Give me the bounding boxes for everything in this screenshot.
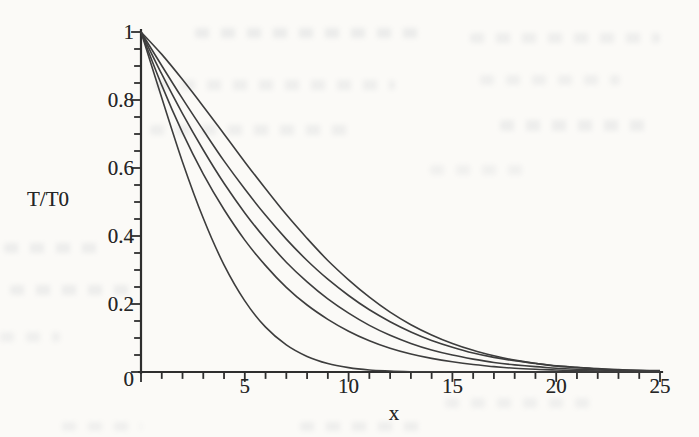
x-tick-label-10: 10 xyxy=(329,375,369,397)
y-tick-label-0.4: 0.4 xyxy=(40,225,134,247)
y-axis-label: T/T0 xyxy=(27,188,85,210)
x-tick-label-20: 20 xyxy=(536,375,576,397)
x-tick-label-15: 15 xyxy=(432,375,472,397)
y-tick-label-0: 0 xyxy=(40,368,134,390)
x-tick-label-25: 25 xyxy=(640,375,680,397)
y-tick-label-1: 1 xyxy=(40,21,134,43)
y-tick-label-0.2: 0.2 xyxy=(40,293,134,315)
x-axis-label: x xyxy=(384,402,404,424)
y-tick-label-0.8: 0.8 xyxy=(40,89,134,111)
y-tick-label-0.6: 0.6 xyxy=(40,157,134,179)
curve-2 xyxy=(141,32,660,372)
x-tick-label-5: 5 xyxy=(225,375,265,397)
scanned-textbook-page: T/T0 x 10.80.60.40.20510152025 xyxy=(0,0,699,437)
